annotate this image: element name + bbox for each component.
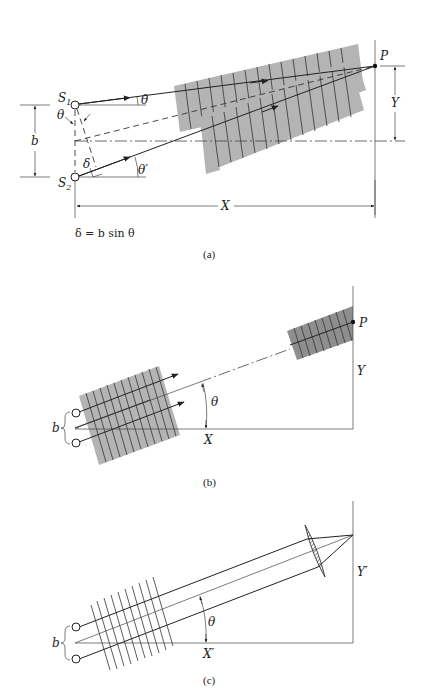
theta-pointer-left (65, 117, 73, 124)
source-lower-b (72, 439, 80, 447)
panel-c: b θ X′ Y′ (c) (52, 501, 368, 687)
wavefront-lines-c (91, 577, 173, 670)
converge-lower-c (318, 535, 353, 567)
caption-c: (c) (203, 674, 216, 687)
label-y-b: Y (357, 364, 366, 378)
panel-b: b θ X Y P (b) (52, 286, 368, 489)
label-theta-left: θ (57, 108, 65, 122)
label-x-b: X (203, 433, 213, 447)
label-y-c: Y′ (357, 565, 368, 579)
label-y-a: Y (391, 96, 400, 110)
label-b-b: b (52, 421, 60, 435)
theta-arc-c (200, 596, 206, 642)
brace-c (61, 626, 70, 660)
point-p-a (373, 64, 377, 68)
label-theta-b: θ (211, 395, 219, 409)
formula-delta: δ = b sin θ (75, 227, 135, 240)
label-x-c: X′ (202, 647, 215, 661)
source-lower-c (72, 655, 80, 663)
panel-a: S1 S2 θ θ θ′ δ b P Y X δ = b sin θ (a) (20, 40, 405, 261)
source-s1 (71, 101, 79, 109)
theta-arc-s1 (137, 97, 138, 105)
ray-s1-arrow (79, 98, 130, 105)
source-upper-b (72, 409, 80, 417)
caption-b: (b) (203, 476, 216, 489)
label-s1: S1 (58, 91, 71, 107)
brace-b (61, 412, 70, 444)
source-upper-c (72, 623, 80, 631)
label-s2: S2 (58, 176, 71, 192)
two-source-interference-figure: S1 S2 θ θ θ′ δ b P Y X δ = b sin θ (a) (0, 0, 425, 694)
label-b-a: b (31, 134, 39, 148)
label-delta: δ (83, 157, 90, 171)
label-theta-top: θ (141, 93, 149, 107)
converge-upper-c (307, 535, 353, 539)
wavefront-band-far-b (287, 306, 353, 360)
theta-pointer-right (84, 114, 90, 121)
source-s2 (71, 173, 79, 181)
caption-a: (a) (203, 248, 216, 261)
center-ray-dashed-b (200, 349, 290, 382)
wavefront-band-near-b (79, 366, 180, 465)
point-p-b (351, 320, 355, 324)
lens-c (305, 525, 325, 577)
label-p-b: P (358, 316, 368, 330)
label-theta-c: θ (208, 615, 216, 629)
label-p-a: P (379, 49, 389, 63)
label-theta-prime: θ′ (138, 163, 148, 177)
beam-upper-c (79, 539, 307, 627)
label-x-a: X (220, 199, 230, 213)
label-b-c: b (52, 636, 60, 650)
